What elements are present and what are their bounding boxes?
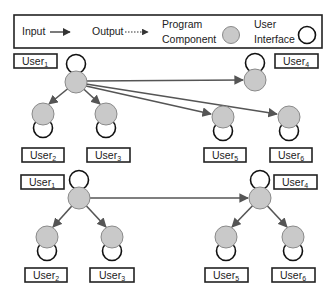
node-user4: User4 — [249, 171, 317, 210]
legend-program-line2: Component — [162, 33, 216, 45]
program-component-icon — [95, 103, 117, 125]
legend-input-label: Input — [22, 25, 45, 37]
legend-program-component-icon — [223, 27, 240, 44]
program-component-icon — [32, 103, 54, 125]
program-component-icon — [215, 226, 237, 248]
legend-ui-line1: User — [254, 18, 277, 30]
node-user2: User2 — [25, 226, 67, 282]
program-component-icon — [212, 106, 234, 128]
program-component-icon — [68, 187, 90, 209]
node-user3: User3 — [90, 226, 134, 282]
program-component-icon — [282, 226, 304, 248]
program-component-icon — [278, 106, 300, 128]
legend-ui-line2: Interface — [254, 33, 295, 45]
program-component-icon — [101, 226, 123, 248]
node-user3: User3 — [87, 103, 130, 162]
program-component-icon — [65, 71, 87, 93]
legend-program-line1: Program — [162, 18, 203, 30]
node-user2: User2 — [22, 103, 64, 162]
program-component-icon — [249, 187, 271, 209]
diagram-top: User1 User4 User2 User3 User5 — [14, 54, 318, 163]
diagram-bottom: User1 User4 User2 User3 User5 — [21, 171, 317, 283]
program-component-icon — [244, 69, 266, 91]
program-component-icon — [36, 226, 58, 248]
node-user4: User4 — [244, 54, 318, 92]
node-user5: User5 — [205, 226, 248, 282]
diagram-canvas: Input Output Program Component User Inte… — [0, 0, 335, 301]
legend-output-label: Output — [92, 25, 124, 37]
node-user6: User6 — [272, 226, 315, 282]
legend: Input Output Program Component User Inte… — [14, 15, 322, 48]
node-user1: User1 — [14, 54, 87, 93]
edge-u1-u4 — [87, 80, 243, 81]
node-user1: User1 — [21, 171, 90, 210]
